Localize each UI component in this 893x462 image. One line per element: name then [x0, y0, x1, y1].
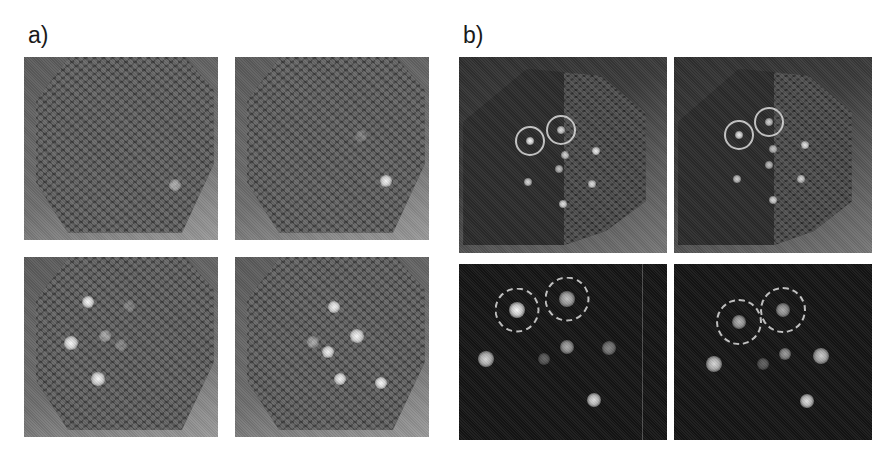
fluorescent-spot	[592, 147, 600, 155]
fluorescent-spot	[769, 196, 777, 204]
fluorescent-spot	[813, 348, 829, 364]
highlight-circle	[495, 287, 540, 332]
fluorescent-spot	[350, 329, 364, 343]
fluorescent-spot	[169, 179, 181, 191]
fluorescent-spot	[322, 346, 334, 358]
microscopy-panel-a2	[235, 57, 429, 240]
fluorescent-spot	[779, 348, 791, 360]
fluorescent-spot	[560, 340, 574, 354]
fluorescent-spot	[588, 180, 596, 188]
microscopy-panel-a4	[235, 257, 429, 437]
hexagonal-well-array	[36, 57, 214, 233]
fluorescent-spot	[524, 178, 532, 186]
microscopy-panel-a1	[24, 57, 218, 240]
highlight-circle	[760, 287, 806, 333]
fluorescent-spot	[801, 141, 809, 149]
fluorescent-spot	[769, 145, 777, 153]
fluorescent-spot	[555, 165, 563, 173]
fluorescent-spot	[328, 301, 340, 313]
fluorescent-spot	[757, 358, 769, 370]
fluorescent-spot	[765, 161, 773, 169]
fluorescent-spot	[478, 351, 494, 367]
chip-outline	[678, 69, 852, 245]
fluorescent-spot	[64, 336, 78, 350]
highlight-circle	[546, 115, 576, 145]
fluorescent-spot	[91, 372, 105, 386]
fluorescent-spot	[380, 175, 392, 187]
fluorescent-spot	[587, 393, 601, 407]
fluorescent-spot	[797, 175, 805, 183]
fluorescent-spot	[99, 330, 111, 342]
hexagonal-well-array	[247, 257, 425, 430]
microscopy-panel-b2	[674, 57, 872, 253]
highlight-circle	[716, 299, 762, 345]
fluorescent-spot	[355, 130, 367, 142]
fluorescent-spot	[561, 151, 569, 159]
hexagonal-well-array	[247, 57, 425, 233]
fluorescent-spot	[334, 373, 346, 385]
fluorescent-spot	[82, 296, 94, 308]
fluorescent-spot	[559, 200, 567, 208]
fluorescent-spot	[706, 356, 722, 372]
panel-group-label-b: b)	[463, 24, 483, 47]
chip-outline	[463, 69, 646, 245]
highlight-circle	[545, 277, 590, 322]
fluorescent-spot	[307, 336, 319, 348]
fluorescent-spot	[115, 339, 127, 351]
fluorescent-spot	[538, 353, 550, 365]
fluorescent-spot	[800, 394, 814, 408]
highlight-circle	[754, 107, 784, 137]
image-artifact-line	[642, 264, 643, 440]
highlight-circle	[724, 120, 754, 150]
fluorescent-spot	[602, 341, 616, 355]
fluorescent-spot	[375, 377, 387, 389]
microscopy-panel-b3	[459, 264, 667, 440]
highlight-circle	[515, 126, 545, 156]
microscopy-panel-b4	[674, 264, 872, 440]
fluorescent-spot	[733, 175, 741, 183]
fluorescent-spot	[123, 300, 135, 312]
microscopy-panel-b1	[459, 57, 667, 253]
microscopy-panel-a3	[24, 257, 218, 437]
panel-group-label-a: a)	[28, 24, 48, 47]
